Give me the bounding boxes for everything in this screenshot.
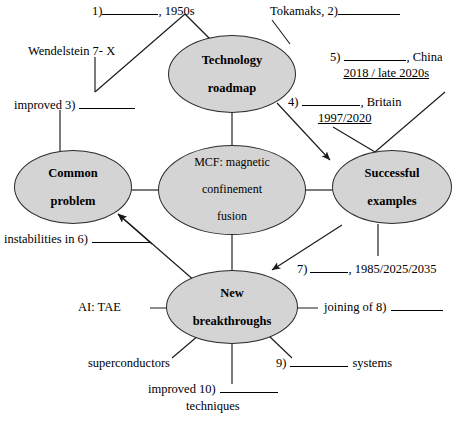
node-successful-examples-label: Successfulexamples [365,166,420,208]
label-gap6-prefix: instabilities in 6) [4,232,88,246]
label-gap3-blank[interactable] [79,108,135,109]
label-gap1-blank[interactable] [102,14,158,15]
label-gap9-suffix: systems [352,356,392,370]
label-gap8-prefix: joining of 8) [324,300,387,314]
node-common-problem-label: Commonproblem [48,166,97,208]
label-gap4-dates: 1997/2020 [288,111,401,126]
label-gap3: improved 3) [14,98,135,113]
line-gap4-successful [333,127,375,152]
node-mcf-center-label: MCF: magneticconfinementfusion [194,156,270,223]
label-gap10-line1: improved 10) [148,382,278,397]
label-gap4-blank[interactable] [302,105,360,106]
line-newbreakthroughs-superconductors [172,335,199,358]
label-gap9-prefix: 9) [276,356,286,370]
label-gap1-prefix: 1) [92,4,102,18]
label-gap6-blank[interactable] [92,242,150,243]
label-gap10-line2: techniques [148,399,278,414]
line-roadmap-tokamaks [272,20,290,44]
label-gap7: 7), 1985/2025/2035 [297,262,437,277]
label-gap9-blank[interactable] [290,366,348,367]
label-tokamaks-prefix: Tokamaks, 2) [270,4,338,18]
label-gap7-prefix: 7) [297,262,307,276]
label-gap4-line1: 4), Britain [288,95,401,110]
label-gap6: instabilities in 6) [4,232,150,247]
label-gap5-dates: 2018 / late 2020s [330,66,443,81]
label-tokamaks: Tokamaks, 2) [270,4,400,19]
label-wendelstein-text: Wendelstein 7- X [28,44,115,58]
label-gap9: 9)systems [276,356,392,371]
label-gap5-blank[interactable] [344,60,406,61]
label-wendelstein: Wendelstein 7- X [28,44,115,59]
label-gap10: improved 10) techniques [148,382,278,414]
mindmap-canvas: Technologyroadmap Commonproblem MCF: mag… [0,0,457,425]
label-tokamaks-blank[interactable] [338,14,400,15]
label-gap5-prefix: 5) [330,50,340,64]
node-technology-roadmap[interactable]: Technologyroadmap [168,35,296,113]
label-superconductors: superconductors [88,356,170,371]
label-gap5-suffix: , China [406,50,442,64]
label-gap8-blank[interactable] [391,310,443,311]
label-superconductors-text: superconductors [88,356,170,370]
label-gap4-suffix: , Britain [360,95,401,109]
node-common-problem[interactable]: Commonproblem [14,150,132,224]
line-newbreakthroughs-gap9 [268,335,292,358]
label-gap1: 1), 1950s [92,4,195,19]
node-mcf-center[interactable]: MCF: magneticconfinementfusion [158,145,306,235]
label-ai-tae-text: AI: TAE [78,300,121,314]
label-gap8: joining of 8) [324,300,443,315]
label-gap7-blank[interactable] [310,272,348,273]
label-gap4-prefix: 4) [288,95,298,109]
node-successful-examples[interactable]: Successfulexamples [332,150,452,224]
node-new-breakthroughs[interactable]: Newbreakthroughs [166,270,298,344]
node-technology-roadmap-label: Technologyroadmap [202,53,263,95]
label-gap4: 4), Britain 1997/2020 [288,95,401,126]
label-gap3-prefix: improved 3) [14,98,75,112]
label-gap10-prefix: improved 10) [148,382,216,396]
label-gap5-line1: 5), China [330,50,443,65]
label-gap5: 5), China 2018 / late 2020s [330,50,443,81]
label-gap1-suffix: , 1950s [158,4,194,18]
label-gap10-blank[interactable] [220,392,278,393]
label-gap7-suffix: , 1985/2025/2035 [348,262,436,276]
label-ai-tae: AI: TAE [78,300,121,315]
node-new-breakthroughs-label: Newbreakthroughs [193,286,272,328]
